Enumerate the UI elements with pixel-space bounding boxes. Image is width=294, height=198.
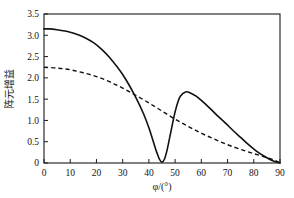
y-axis-title: 阵元增益: [3, 69, 15, 109]
x-tick-label: 20: [92, 168, 102, 178]
series-dashed-curve: [44, 67, 280, 163]
x-tick-label: 60: [197, 168, 207, 178]
y-tick-label: 1.0: [27, 116, 39, 126]
x-tick-label: 80: [249, 168, 259, 178]
line-chart: 00.51.01.52.02.53.03.5 01020304050607080…: [0, 0, 294, 198]
y-tick-label: 3.5: [27, 9, 39, 19]
chart-figure: 00.51.01.52.02.53.03.5 01020304050607080…: [0, 0, 294, 198]
x-tick-label: 70: [223, 168, 233, 178]
y-tick-label: 0.5: [27, 137, 39, 147]
y-tick-label: 1.5: [27, 95, 39, 105]
y-tick-label: 0: [34, 158, 39, 168]
x-tick-label: 30: [118, 168, 128, 178]
y-tick-label: 2.0: [27, 73, 39, 83]
x-tick-label: 40: [144, 168, 154, 178]
x-tick-label: 0: [42, 168, 47, 178]
x-tick-label: 50: [170, 168, 180, 178]
y-tick-label: 2.5: [27, 52, 39, 62]
x-tick-label: 10: [65, 168, 75, 178]
x-tick-label: 90: [275, 168, 285, 178]
y-tick-label: 3.0: [27, 31, 39, 41]
series-solid-curve: [44, 29, 280, 163]
y-axis-ticks: 00.51.01.52.02.53.03.5: [27, 9, 48, 168]
x-axis-title: φ/(°): [152, 181, 171, 193]
